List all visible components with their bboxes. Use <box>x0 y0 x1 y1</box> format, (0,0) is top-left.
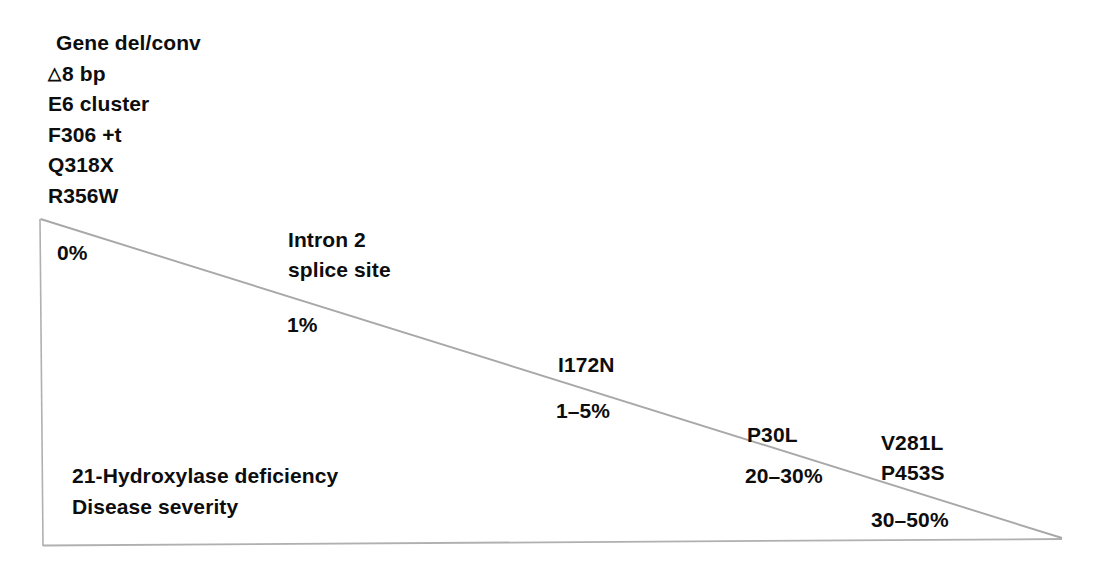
activity-label-0: 0% <box>57 238 88 268</box>
mutation-label: P453S <box>881 458 945 488</box>
mutation-label: splice site <box>288 255 391 285</box>
mutation-label: Q318X <box>48 153 114 176</box>
mutation-label: Gene del/conv <box>56 31 201 54</box>
activity-label-3: 20–30% <box>745 461 823 491</box>
figure-title-line-2: Disease severity <box>72 492 238 522</box>
list-item: F306 +t <box>48 120 308 151</box>
mutation-label: R356W <box>48 184 119 207</box>
list-item: Gene del/conv <box>48 28 308 59</box>
activity-label-2: 1–5% <box>556 396 610 426</box>
figure-canvas: Gene del/conv △8 bp E6 cluster F306 +t Q… <box>0 0 1094 574</box>
mutation-label: P30L <box>747 420 798 450</box>
triangle-left-edge <box>40 219 43 546</box>
figure-title-line-1: 21-Hydroxylase deficiency <box>72 461 338 491</box>
mutation-label: F306 +t <box>48 123 122 146</box>
mutation-label: I172N <box>558 350 615 380</box>
p30l-group: P30L <box>747 420 798 450</box>
list-item: E6 cluster <box>48 89 308 120</box>
mutation-list: Gene del/conv △8 bp E6 cluster F306 +t Q… <box>48 28 308 211</box>
activity-label-1: 1% <box>287 310 318 340</box>
mutation-label: V281L <box>881 428 945 458</box>
mutation-label: Intron 2 <box>288 225 391 255</box>
v281l-p453s-group: V281L P453S <box>881 428 945 488</box>
activity-label-4: 30–50% <box>871 505 949 535</box>
i172n-group: I172N <box>558 350 615 380</box>
delta-triangle-icon: △ <box>48 59 61 90</box>
mutation-label: 8 bp <box>62 62 106 85</box>
list-item: Q318X <box>48 150 308 181</box>
list-item: R356W <box>48 181 308 212</box>
mutation-label: E6 cluster <box>48 92 149 115</box>
triangle-bottom-edge <box>43 539 1062 546</box>
list-item: △8 bp <box>48 59 308 90</box>
intron-2-group: Intron 2 splice site <box>288 225 391 285</box>
